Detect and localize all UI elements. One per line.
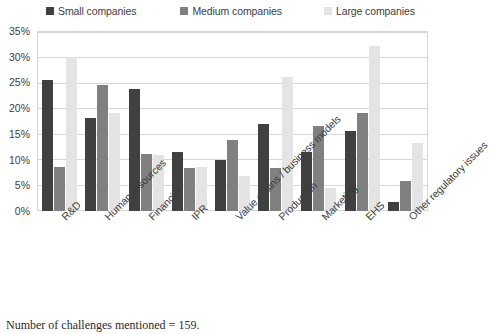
- bar-groups: [37, 31, 428, 211]
- legend-label: Medium companies: [192, 5, 281, 17]
- bar-1: [400, 181, 411, 211]
- bar-2: [66, 57, 77, 211]
- y-axis-tick-label: 5%: [15, 179, 30, 191]
- legend-label: Large companies: [336, 5, 415, 17]
- x-axis-labels: R&DHuman resourcesFinancialIPRValue chai…: [37, 211, 428, 316]
- legend-item-small-companies: Small companies: [46, 5, 136, 17]
- bar-0: [42, 80, 53, 211]
- chart-legend: Small companies Medium companies Large c…: [40, 2, 430, 20]
- y-axis-tick-label: 30%: [9, 51, 30, 63]
- bar-1: [184, 168, 195, 211]
- bar-1: [357, 113, 368, 211]
- bar-0: [85, 118, 96, 211]
- bar-0: [388, 202, 399, 211]
- bar-group: [211, 31, 254, 211]
- legend-square-icon: [46, 7, 54, 15]
- y-axis-tick-label: 15%: [9, 128, 30, 140]
- bar-group: [384, 31, 427, 211]
- bar-2: [369, 46, 380, 211]
- legend-square-icon: [324, 7, 332, 15]
- bar-group: [81, 31, 124, 211]
- bar-group: [341, 31, 384, 211]
- legend-square-icon: [180, 7, 188, 15]
- bar-1: [97, 85, 108, 211]
- y-axis-tick-label: 35%: [9, 25, 30, 37]
- y-axis: 35%30%25%20%15%10%5%0%: [0, 31, 33, 211]
- bar-1: [54, 167, 65, 211]
- y-axis-tick-label: 20%: [9, 102, 30, 114]
- y-axis-tick-label: 10%: [9, 154, 30, 166]
- bar-2: [282, 77, 293, 211]
- figure-caption: Number of challenges mentioned = 159.: [6, 318, 199, 333]
- bar-1: [227, 140, 238, 211]
- y-axis-tick-label: 25%: [9, 76, 30, 88]
- legend-label: Small companies: [58, 5, 136, 17]
- bar-0: [215, 160, 226, 211]
- legend-item-large-companies: Large companies: [324, 5, 415, 17]
- y-axis-tick-label: 0%: [15, 205, 30, 217]
- legend-item-medium-companies: Medium companies: [180, 5, 281, 17]
- plot-area-wrapper: [37, 31, 428, 211]
- bar-group: [38, 31, 81, 211]
